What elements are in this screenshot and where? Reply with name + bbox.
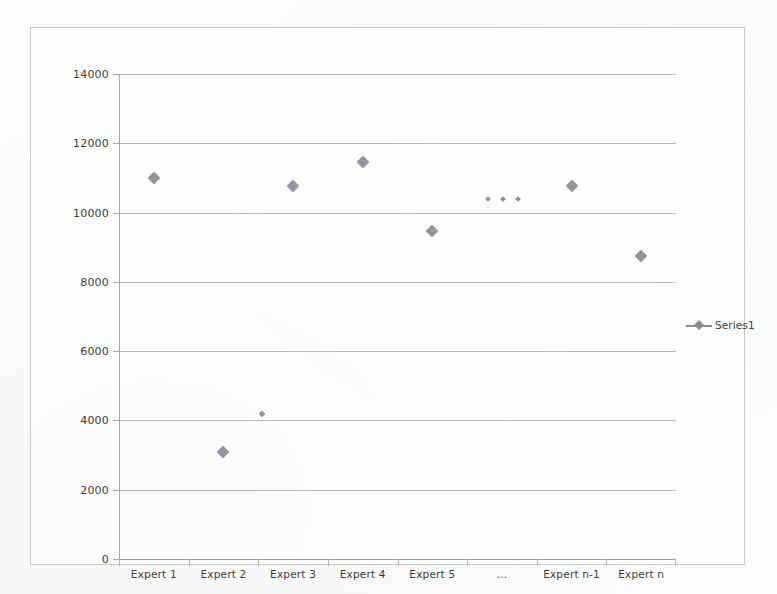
y-axis-tick-10000 — [113, 213, 119, 214]
gridline-8000 — [119, 282, 676, 283]
x-axis-category-label: Expert n — [606, 559, 676, 589]
x-axis-category-label: Expert 2 — [189, 559, 259, 589]
y-axis-line — [119, 74, 120, 559]
data-point-marker — [565, 179, 578, 192]
data-point-marker — [287, 179, 300, 192]
category-text: Expert n-1 — [543, 568, 600, 580]
x-axis-category-label: Expert 5 — [398, 559, 468, 589]
legend-item-label: Series1 — [715, 319, 755, 331]
data-point-marker — [356, 156, 369, 169]
ellipsis-data-dot — [500, 196, 506, 202]
y-axis-tick-4000 — [113, 420, 119, 421]
data-point-marker — [635, 250, 648, 263]
data-point-marker-small — [258, 410, 265, 417]
data-point-marker — [217, 445, 230, 458]
ellipsis-data-dot — [515, 196, 521, 202]
gridline-2000 — [119, 490, 676, 491]
gridline-12000 — [119, 143, 676, 144]
gridline-6000 — [119, 351, 676, 352]
y-axis-tick-14000 — [113, 74, 119, 75]
y-axis-tick-label: 2000 — [39, 483, 109, 496]
ellipsis-data-dot — [485, 196, 491, 202]
gridline-4000 — [119, 420, 676, 421]
x-axis-category-label: ... — [467, 559, 537, 589]
x-axis-categories: Expert 1Expert 2Expert 3Expert 4Expert 5… — [119, 559, 676, 589]
x-axis-category-label: Expert 1 — [119, 559, 189, 589]
x-axis-category-label: Expert 4 — [328, 559, 398, 589]
y-axis-tick-0 — [113, 559, 119, 560]
data-point-marker — [147, 172, 160, 185]
y-axis-tick-8000 — [113, 282, 119, 283]
legend: Series1 — [686, 316, 755, 334]
y-axis-tick-label: 12000 — [39, 137, 109, 150]
y-axis-tick-label: 14000 — [39, 68, 109, 81]
chart-frame: 02000400060008000100001200014000 Expert … — [30, 27, 745, 565]
y-axis-tick-label: 6000 — [39, 345, 109, 358]
category-text: Expert 3 — [270, 568, 316, 580]
gridline-14000 — [119, 74, 676, 75]
category-text: Expert 2 — [200, 568, 246, 580]
y-axis-tick-label: 4000 — [39, 414, 109, 427]
data-point-marker — [426, 225, 439, 238]
legend-series-marker-icon — [686, 320, 712, 330]
plot-area — [119, 74, 676, 559]
x-axis-category-label: Expert 3 — [258, 559, 328, 589]
category-text: Expert 1 — [131, 568, 177, 580]
category-text: Expert 5 — [409, 568, 455, 580]
y-axis-tick-12000 — [113, 143, 119, 144]
category-text: Expert 4 — [340, 568, 386, 580]
y-axis-tick-6000 — [113, 351, 119, 352]
y-axis-tick-label: 10000 — [39, 206, 109, 219]
category-text: ... — [497, 568, 508, 580]
y-axis-tick-label: 0 — [39, 553, 109, 566]
y-axis-tick-2000 — [113, 490, 119, 491]
y-axis-tick-label: 8000 — [39, 275, 109, 288]
gridline-10000 — [119, 213, 676, 214]
x-axis-category-label: Expert n-1 — [537, 559, 607, 589]
category-text: Expert n — [618, 568, 664, 580]
y-axis-labels: 02000400060008000100001200014000 — [31, 28, 109, 564]
